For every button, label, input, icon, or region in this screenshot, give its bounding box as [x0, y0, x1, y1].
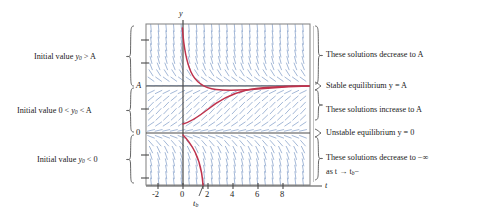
left-annotation-above-A-rel: > A: [82, 52, 96, 61]
right-annotation-decrease-neg-inf-line1: These solutions decrease to −∞: [326, 153, 428, 162]
x-tick-label-4: 6: [255, 189, 259, 199]
x-tick-label-2: 2: [205, 189, 209, 199]
left-annotation-between-rel: < A: [78, 106, 92, 115]
x-tick-label-5: 8: [280, 189, 284, 199]
left-annotation-between-0-A: Initial value 0 < y0 < A: [17, 106, 92, 115]
right-brace-above-A: [315, 26, 323, 84]
left-brace-above-A: [127, 26, 135, 86]
left-annotation-above-A-prefix: Initial value: [34, 52, 75, 61]
left-annotation-below-rel: < 0: [85, 155, 98, 164]
right-annotation-stable-eq: Stable equilibrium y = A: [326, 81, 407, 90]
y-axis-label: y: [179, 9, 183, 18]
left-annotation-below-prefix: Initial value: [37, 155, 78, 164]
tb-leader-line: [199, 186, 203, 196]
right-brace-stable: [315, 82, 321, 90]
t-axis-label: t: [325, 181, 327, 190]
right-annotation-decrease-to-A: These solutions decrease to A: [326, 50, 423, 59]
right-annotation-line2-minus: −: [354, 167, 359, 176]
left-annotation-above-A: Initial value y0 > A: [34, 52, 96, 61]
x-tick-label-1: 0: [180, 189, 184, 199]
left-annotation-between-prefix: Initial value 0 <: [17, 106, 71, 115]
x-tick-label-0: -2: [152, 189, 159, 199]
left-brace-below-0: [127, 135, 135, 183]
x-tick-label-3: 4: [230, 189, 234, 199]
left-annotation-below-0: Initial value y0 < 0: [37, 155, 98, 164]
right-braces: [315, 26, 323, 180]
left-braces: [127, 26, 135, 183]
right-annotation-line2-text: as t → t: [326, 167, 352, 176]
tb-label-sub: b: [195, 202, 198, 208]
right-brace-decrease-neg-inf: [315, 137, 323, 180]
right-annotation-increase-to-A: These solutions increase to A: [326, 105, 422, 114]
right-annotation-unstable-eq: Unstable equilibrium y = 0: [326, 128, 414, 137]
right-brace-increase: [315, 90, 323, 120]
right-brace-unstable: [315, 129, 321, 137]
left-brace-between-0-A: [127, 88, 135, 132]
tb-label: tb: [193, 198, 198, 208]
y-label-A: A: [136, 80, 141, 90]
plot-background: [146, 24, 310, 185]
y-label-zero: 0: [136, 127, 140, 137]
right-annotation-decrease-neg-inf-line2: as t → tb−: [326, 167, 359, 176]
